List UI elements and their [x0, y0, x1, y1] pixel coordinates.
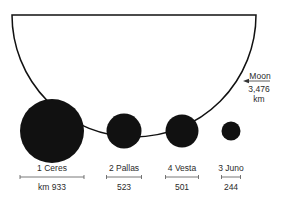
asteroid-diameter-pallas: 523	[117, 183, 131, 192]
moon-name: Moon	[247, 71, 273, 81]
asteroid-diameter-ceres: km 933	[38, 183, 66, 192]
asteroid-diameter-vesta: 501	[175, 183, 189, 192]
scale-bar-pallas	[107, 175, 142, 179]
asteroid-disc-pallas	[107, 114, 142, 149]
moon-diameter-value: 3,476	[245, 84, 273, 94]
asteroid-name-pallas: 2 Pallas	[109, 164, 139, 173]
moon-diameter: 3,476 km	[245, 84, 273, 104]
moon-label: Moon	[247, 71, 273, 81]
scale-bar-juno	[222, 175, 241, 179]
moon-diameter-unit: km	[245, 94, 273, 104]
scale-bar-ceres	[20, 175, 84, 179]
asteroid-name-juno: 3 Juno	[218, 164, 244, 173]
asteroid-name-ceres: 1 Ceres	[37, 164, 67, 173]
asteroid-disc-vesta	[166, 115, 199, 148]
asteroid-diameter-juno: 244	[224, 183, 238, 192]
asteroid-disc-ceres	[20, 99, 84, 163]
asteroid-name-vesta: 4 Vesta	[168, 164, 196, 173]
asteroid-disc-juno	[222, 122, 241, 141]
scale-bar-vesta	[166, 175, 199, 179]
